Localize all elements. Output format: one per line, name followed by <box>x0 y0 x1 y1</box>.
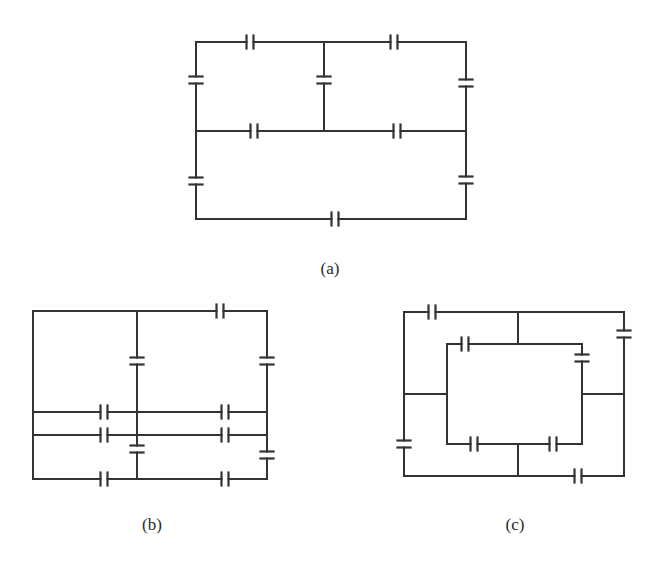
capacitor-icon <box>190 77 203 84</box>
circuit-c-diagram <box>398 306 631 483</box>
capacitor-circuits-figure <box>0 0 655 563</box>
capacitor-icon <box>429 306 436 319</box>
capacitor-icon <box>222 429 229 442</box>
capacitor-icon <box>131 358 144 365</box>
capacitor-icon <box>222 473 229 486</box>
capacitor-icon <box>398 441 411 448</box>
capacitor-icon <box>251 125 258 138</box>
capacitor-icon <box>460 177 473 184</box>
capacitor-icon <box>101 429 108 442</box>
capacitor-icon <box>318 77 331 84</box>
capacitor-icon <box>261 358 274 365</box>
capacitor-icon <box>190 178 203 185</box>
wires <box>33 311 267 479</box>
capacitor-icon <box>332 213 339 226</box>
circuit-c-label: (c) <box>506 515 525 535</box>
capacitor-icon <box>247 36 254 49</box>
capacitor-icon <box>217 305 224 318</box>
capacitor-icon <box>101 406 108 419</box>
capacitor-icon <box>462 338 469 351</box>
capacitor-icon <box>394 125 401 138</box>
capacitor-icon <box>460 80 473 87</box>
capacitor-icon <box>131 446 144 453</box>
capacitor-icon <box>576 355 589 362</box>
capacitor-icon <box>550 438 557 451</box>
capacitor-icon <box>101 473 108 486</box>
capacitor-icon <box>261 452 274 459</box>
capacitor-icon <box>575 470 582 483</box>
circuit-a-diagram <box>190 36 473 226</box>
wires <box>196 42 466 219</box>
circuit-b-label: (b) <box>142 515 162 535</box>
capacitor-icon <box>471 438 478 451</box>
capacitor-icon <box>618 331 631 338</box>
capacitor-icon <box>222 406 229 419</box>
circuit-a-label: (a) <box>321 259 340 279</box>
capacitor-icon <box>391 36 398 49</box>
circuit-b-diagram <box>33 305 274 486</box>
wires <box>404 312 624 476</box>
